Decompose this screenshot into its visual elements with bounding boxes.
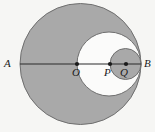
point-label-o: O bbox=[72, 67, 80, 78]
point-label-p: P bbox=[104, 67, 111, 78]
point-label-q: Q bbox=[120, 67, 128, 78]
point-label-b: B bbox=[144, 58, 151, 69]
circles-figure: AOPQB bbox=[0, 0, 155, 132]
point-label-a: A bbox=[4, 58, 11, 69]
